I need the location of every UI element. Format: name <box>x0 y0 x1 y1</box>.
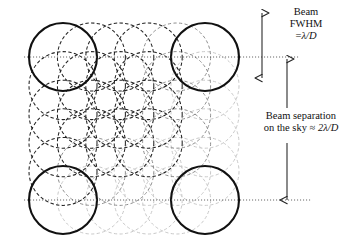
beam-fwhm-label: Beam FWHM =λ/D <box>268 6 344 41</box>
beam-fwhm-line3: =λ/D <box>268 30 344 42</box>
circle-grid <box>29 23 239 234</box>
beam-circle-light <box>171 137 239 205</box>
beam-separation-value: 2λ/D <box>315 122 338 133</box>
light-circle-group <box>57 23 239 234</box>
dashed-circle-group <box>29 23 182 205</box>
beam-circle-mid <box>143 23 211 91</box>
beam-circle-mid <box>143 52 211 120</box>
beam-fwhm-line1: Beam <box>268 6 344 18</box>
figure-canvas: Beam FWHM =λ/D Beam separation on the sk… <box>0 0 345 247</box>
beam-fwhm-value: λ/D <box>301 30 316 41</box>
mid-circle-group <box>57 23 210 205</box>
beam-separation-label: Beam separation on the sky ≈ 2λ/D <box>258 110 344 134</box>
beam-separation-line2: on the sky ≈ 2λ/D <box>258 122 344 134</box>
beam-separation-prefix: on the sky <box>264 122 310 133</box>
beam-separation-line1: Beam separation <box>258 110 344 122</box>
beam-fwhm-line2: FWHM <box>268 18 344 30</box>
